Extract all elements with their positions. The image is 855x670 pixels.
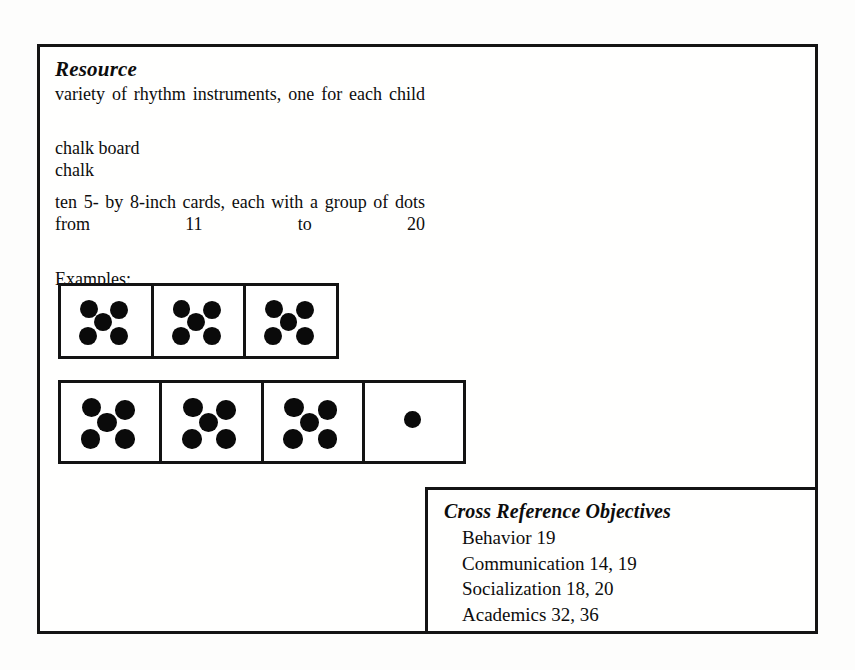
dot-card-strip-row1 <box>58 283 339 359</box>
dot <box>79 327 97 345</box>
dot <box>300 413 320 433</box>
cross-reference-item-academics: Academics 32, 36 <box>462 602 815 628</box>
resource-line-cards: ten 5- by 8-inch cards, each with a grou… <box>55 192 425 257</box>
dot-card-single <box>365 383 463 461</box>
dot <box>187 313 205 331</box>
dot <box>82 398 102 418</box>
dot <box>97 413 117 433</box>
resource-section: Resource variety of rhythm instruments, … <box>55 56 425 290</box>
dot <box>284 398 304 418</box>
dot <box>216 400 236 420</box>
dot <box>172 327 190 345</box>
resource-frame: Resource variety of rhythm instruments, … <box>37 44 818 634</box>
dot <box>283 429 303 449</box>
dot <box>110 301 128 319</box>
dot <box>183 398 203 418</box>
dot-card <box>61 383 162 461</box>
cross-reference-heading: Cross Reference Objectives <box>444 499 815 524</box>
dot <box>110 327 128 345</box>
dot-card-strip-row2 <box>58 380 466 464</box>
dot <box>318 400 338 420</box>
dot <box>203 301 221 319</box>
dot-card <box>154 286 247 356</box>
dot <box>203 327 221 345</box>
dot <box>280 313 298 331</box>
dot <box>94 313 112 331</box>
cross-reference-item-communication: Communication 14, 19 <box>462 551 815 577</box>
dot <box>296 327 314 345</box>
cross-reference-box: Cross Reference Objectives Behavior 19 C… <box>425 487 818 634</box>
dot <box>216 429 236 449</box>
dot-card <box>162 383 263 461</box>
resource-line-instruments: variety of rhythm instruments, one for e… <box>55 84 425 127</box>
dot <box>265 300 283 318</box>
dot-card <box>61 286 154 356</box>
dot <box>404 411 421 428</box>
dot <box>264 327 282 345</box>
resource-line-chalk: chalk <box>55 160 425 182</box>
cross-reference-list: Behavior 19 Communication 14, 19 Sociali… <box>444 525 815 627</box>
dot <box>182 429 202 449</box>
dot-card <box>264 383 365 461</box>
dot <box>115 400 135 420</box>
dot <box>81 429 101 449</box>
dot <box>296 301 314 319</box>
resource-heading: Resource <box>55 56 425 82</box>
dot-card <box>246 286 336 356</box>
dot <box>173 300 191 318</box>
dot <box>318 429 338 449</box>
dot <box>199 413 219 433</box>
cross-reference-item-socialization: Socialization 18, 20 <box>462 576 815 602</box>
dot <box>115 429 135 449</box>
cross-reference-item-behavior: Behavior 19 <box>462 525 815 551</box>
dot <box>80 300 98 318</box>
document-page: Resource variety of rhythm instruments, … <box>0 0 855 670</box>
resource-line-chalkboard: chalk board <box>55 138 425 160</box>
